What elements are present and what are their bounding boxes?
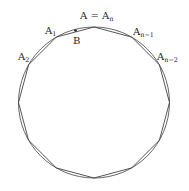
- label-a-equals-an: A = An: [80, 11, 113, 23]
- label-an-minus-1: An−1: [133, 27, 154, 39]
- circle-polygon-diagram: [0, 0, 189, 191]
- label-point-b: B: [73, 36, 80, 46]
- label-subscript: n−1: [140, 31, 154, 39]
- label-subscript: 1: [52, 30, 56, 38]
- label-an-minus-2: An−2: [157, 52, 178, 64]
- label-a2: A2: [18, 52, 29, 64]
- inscribed-dodecagon: [19, 27, 170, 178]
- label-subscript: n−2: [164, 56, 178, 64]
- label-a1: A1: [45, 26, 56, 38]
- label-text: A = A: [80, 10, 109, 21]
- label-subscript: n: [109, 15, 113, 23]
- point-b-dot: [74, 29, 77, 32]
- label-subscript: 2: [25, 56, 29, 64]
- label-text: B: [73, 35, 80, 46]
- circumscribed-circle: [19, 27, 170, 178]
